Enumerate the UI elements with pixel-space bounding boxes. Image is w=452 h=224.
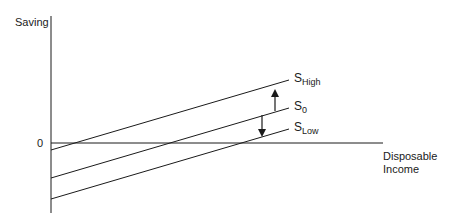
zero-tick-label: 0 — [37, 137, 43, 150]
x-axis-label-line2: Income — [383, 163, 419, 176]
s-low-label: SLow — [294, 121, 319, 138]
s-high-label: SHigh — [294, 72, 321, 89]
x-axis-label-line1: Disposable — [383, 150, 437, 163]
y-axis-label: Saving — [15, 16, 49, 29]
saving-function-diagram — [0, 0, 452, 224]
s0-label: S0 — [294, 100, 307, 117]
